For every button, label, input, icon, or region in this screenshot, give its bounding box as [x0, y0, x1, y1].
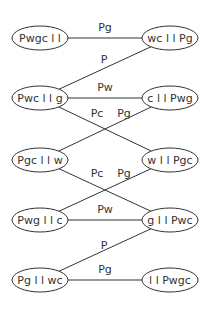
state-node-n5: Pgc l l w — [12, 148, 68, 172]
edge-label: P — [101, 239, 108, 252]
edge-label: Pw — [97, 81, 113, 94]
edge-label: Pg — [117, 107, 131, 120]
node-label: c l l Pwg — [147, 92, 192, 105]
state-node-n2: wc l l Pg — [142, 26, 198, 50]
edge-label: Pg — [117, 167, 131, 180]
state-node-n1: Pwgc l l — [12, 26, 68, 50]
state-node-n10: l l Pwgc — [142, 268, 198, 292]
state-node-n6: w l l Pgc — [142, 148, 198, 172]
state-node-n3: Pwc l l g — [12, 86, 68, 110]
state-diagram: Pwgc l lwc l l PgPwc l l gc l l PwgPgc l… — [0, 0, 211, 309]
edge-label: Pc — [91, 167, 104, 180]
edge-label: Pg — [98, 263, 112, 276]
node-label: w l l Pgc — [147, 154, 192, 167]
node-label: Pwgc l l — [19, 32, 61, 45]
state-node-n7: Pwg l l c — [12, 208, 68, 232]
node-label: l l Pwgc — [149, 274, 191, 287]
node-label: Pwg l l c — [17, 214, 62, 227]
edge-label: Pw — [97, 203, 113, 216]
node-label: Pgc l l w — [17, 154, 62, 167]
edge-label: Pc — [91, 107, 104, 120]
node-label: wc l l Pg — [147, 32, 192, 45]
state-node-n4: c l l Pwg — [142, 86, 198, 110]
edge-label: P — [101, 53, 108, 66]
node-label: Pwc l l g — [17, 92, 62, 105]
state-node-n9: Pg l l wc — [12, 268, 68, 292]
node-label: Pg l l wc — [17, 274, 62, 287]
state-node-n8: g l l Pwc — [142, 208, 198, 232]
edge-label: Pg — [98, 21, 112, 34]
node-label: g l l Pwc — [147, 214, 192, 227]
